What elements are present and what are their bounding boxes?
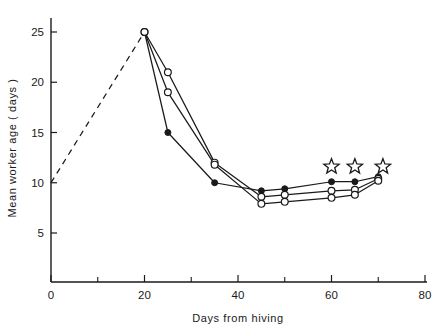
extrapolated-dashed-line — [51, 32, 145, 183]
series-line-colony-c-open-circles-lower — [145, 32, 379, 204]
data-point-marker — [281, 191, 288, 198]
data-point-marker — [328, 194, 335, 201]
data-point-marker — [329, 179, 335, 185]
star-marker — [347, 159, 362, 173]
data-point-marker — [258, 193, 265, 200]
data-point-marker — [164, 89, 171, 96]
y-tick-label: 20 — [31, 76, 44, 88]
x-tick-label: 40 — [232, 289, 245, 301]
series-line-colony-b-open-circles-upper — [145, 32, 379, 197]
data-point-marker — [281, 198, 288, 205]
axes: 510152025 020406080 — [31, 18, 431, 301]
x-tick-label: 80 — [419, 289, 432, 301]
y-tick-label: 25 — [31, 26, 44, 38]
data-point-marker — [211, 161, 218, 168]
data-point-marker — [328, 187, 335, 194]
series-lines — [145, 32, 379, 204]
y-axis-title: Mean worker age ( days ) — [6, 78, 18, 217]
chart-figure: 510152025 020406080 Days from hiving Mea… — [0, 0, 442, 328]
star-annotations — [324, 159, 391, 173]
line-chart-canvas: 510152025 020406080 Days from hiving Mea… — [0, 0, 442, 328]
x-tick-label: 0 — [48, 289, 54, 301]
data-point-marker — [212, 180, 218, 186]
data-point-marker — [164, 69, 171, 76]
x-axis-ticks — [51, 275, 425, 282]
y-tick-label: 10 — [31, 177, 44, 189]
x-tick-label: 60 — [325, 289, 338, 301]
data-point-marker — [141, 29, 148, 36]
data-point-marker — [258, 200, 265, 207]
star-marker — [324, 159, 339, 173]
plot-area — [51, 29, 391, 208]
y-axis-tick-labels: 510152025 — [31, 26, 44, 239]
data-point-marker — [351, 191, 358, 198]
x-axis-title: Days from hiving — [192, 312, 284, 324]
data-point-marker — [352, 179, 358, 185]
y-axis-ticks — [51, 32, 57, 233]
x-tick-label: 20 — [138, 289, 151, 301]
data-point-marker — [165, 130, 171, 136]
series-markers — [141, 29, 382, 208]
star-marker — [375, 159, 390, 173]
x-axis-tick-labels: 020406080 — [48, 289, 432, 301]
data-point-marker — [375, 177, 382, 184]
y-tick-label: 15 — [31, 127, 44, 139]
y-tick-label: 5 — [38, 227, 44, 239]
